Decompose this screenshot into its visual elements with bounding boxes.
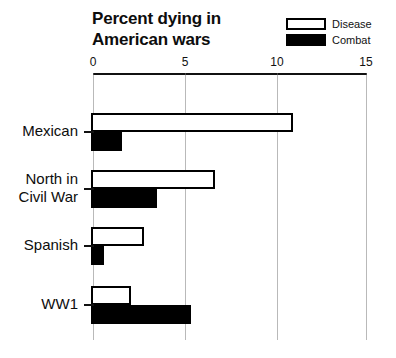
category-label-ww1: WW1 (41, 295, 78, 313)
bar-spanish-combat (91, 246, 104, 265)
category-label-mexican-line-1: Mexican (22, 122, 78, 140)
category-tick-ww1 (84, 304, 94, 306)
category-label-north-in-civil-war: North in Civil War (19, 170, 78, 206)
bar-ww1-disease (91, 286, 131, 305)
category-label-ww1-line-1: WW1 (41, 295, 78, 313)
category-label-spanish: Spanish (24, 236, 78, 254)
bar-mexican-disease (91, 113, 293, 132)
category-label-spanish-line-1: Spanish (24, 236, 78, 254)
category-label-civil-war-line-2: Civil War (19, 188, 78, 206)
bar-ww1-combat (91, 305, 191, 324)
bar-chart: Percent dying in American wars Disease C… (0, 0, 396, 358)
category-label-mexican: Mexican (22, 122, 78, 140)
gridline-15 (366, 75, 367, 340)
bar-civil-war-disease (91, 170, 215, 189)
bar-spanish-disease (91, 227, 144, 246)
category-tick-spanish (84, 245, 94, 247)
category-tick-mexican (84, 131, 94, 133)
plot-area: Mexican North in Civil War Spanish (0, 0, 396, 358)
category-tick-north-in-civil-war (84, 188, 94, 190)
category-label-civil-war-line-1: North in (19, 170, 78, 188)
bar-civil-war-combat (91, 189, 157, 208)
bar-mexican-combat (91, 132, 122, 151)
